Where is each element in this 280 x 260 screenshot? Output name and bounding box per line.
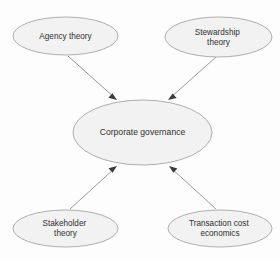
node-stakeholder-theory[interactable]: Stakeholder theory xyxy=(13,210,118,247)
diagram-canvas: Agency theory Stewardship theory Corpora… xyxy=(0,0,280,260)
node-agency-theory[interactable]: Agency theory xyxy=(13,17,118,55)
edge-line xyxy=(70,168,115,209)
edge-line xyxy=(171,168,216,209)
node-corporate-governance[interactable]: Corporate governance xyxy=(73,100,212,165)
node-label: Corporate governance xyxy=(100,127,186,137)
nodes-group: Agency theory Stewardship theory Corpora… xyxy=(13,17,272,247)
edge-transaction-to-governance xyxy=(169,166,216,209)
edge-line xyxy=(68,56,115,98)
arrowhead-icon xyxy=(169,166,177,173)
edge-line xyxy=(170,57,216,98)
node-label: Agency theory xyxy=(39,32,92,41)
edge-stewardship-to-governance xyxy=(168,57,216,100)
arrowhead-icon xyxy=(109,166,118,173)
edge-stakeholder-to-governance xyxy=(70,166,117,209)
edge-agency-to-governance xyxy=(68,56,117,100)
arrowhead-icon xyxy=(108,93,117,100)
node-transaction-cost-economics[interactable]: Transaction cost economics xyxy=(168,210,272,247)
node-stewardship-theory[interactable]: Stewardship theory xyxy=(165,17,272,57)
arrowhead-icon xyxy=(168,93,177,100)
corporate-governance-diagram: Agency theory Stewardship theory Corpora… xyxy=(0,0,280,260)
